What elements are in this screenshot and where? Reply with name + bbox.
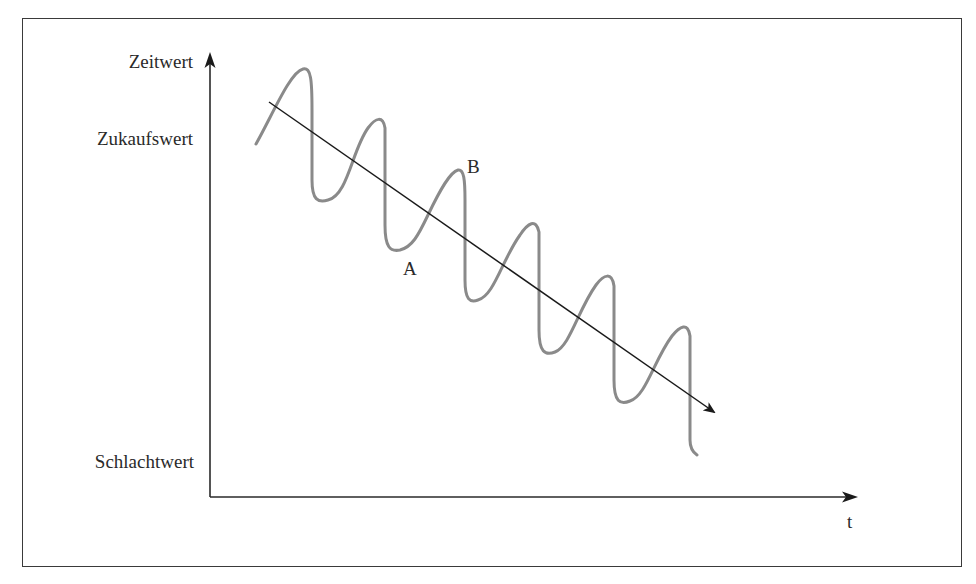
- oscillating-value-curve: [256, 69, 697, 455]
- downward-trend-arrow: [269, 102, 714, 412]
- diagram-canvas: [0, 0, 976, 584]
- x-axis: [210, 492, 858, 503]
- level-label-schlachtwert: Schlachtwert: [50, 452, 194, 471]
- point-label-b: B: [467, 157, 480, 176]
- y-axis: [205, 52, 216, 497]
- x-axis-title: t: [847, 512, 852, 531]
- level-label-zukaufswert: Zukaufswert: [60, 129, 193, 148]
- y-axis-title: Zeitwert: [100, 52, 193, 71]
- point-label-a: A: [403, 259, 417, 278]
